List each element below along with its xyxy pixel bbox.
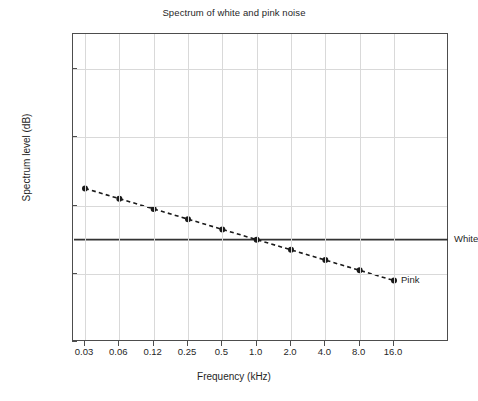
series-label-pink: Pink xyxy=(401,274,419,285)
gridline-vertical xyxy=(188,34,189,340)
gridline-vertical xyxy=(257,34,258,340)
y-tick-mark xyxy=(72,136,77,137)
gridline-vertical xyxy=(119,34,120,340)
gridline-horizontal xyxy=(73,69,447,70)
series-layer xyxy=(73,34,449,342)
gridline-horizontal xyxy=(73,206,447,207)
gridline-vertical xyxy=(325,34,326,340)
gridline-vertical xyxy=(394,34,395,340)
gridline-vertical xyxy=(85,34,86,340)
gridline-horizontal xyxy=(73,137,447,138)
gridline-horizontal xyxy=(73,274,447,275)
x-tick-label: 16.0 xyxy=(373,346,413,357)
series-label-white: White xyxy=(454,233,478,244)
y-tick-mark xyxy=(72,341,77,342)
gridline-vertical xyxy=(154,34,155,340)
y-tick-mark xyxy=(72,205,77,206)
gridline-vertical xyxy=(222,34,223,340)
chart-title: Spectrum of white and pink noise xyxy=(0,7,468,18)
gridline-vertical xyxy=(360,34,361,340)
y-tick-mark xyxy=(72,68,77,69)
gridline-vertical xyxy=(291,34,292,340)
plot-area xyxy=(72,33,448,341)
y-axis-label: Spectrum level (dB) xyxy=(21,88,32,228)
y-tick-mark xyxy=(72,273,77,274)
x-axis-label: Frequency (kHz) xyxy=(0,371,468,382)
series-line-pink xyxy=(85,188,394,280)
